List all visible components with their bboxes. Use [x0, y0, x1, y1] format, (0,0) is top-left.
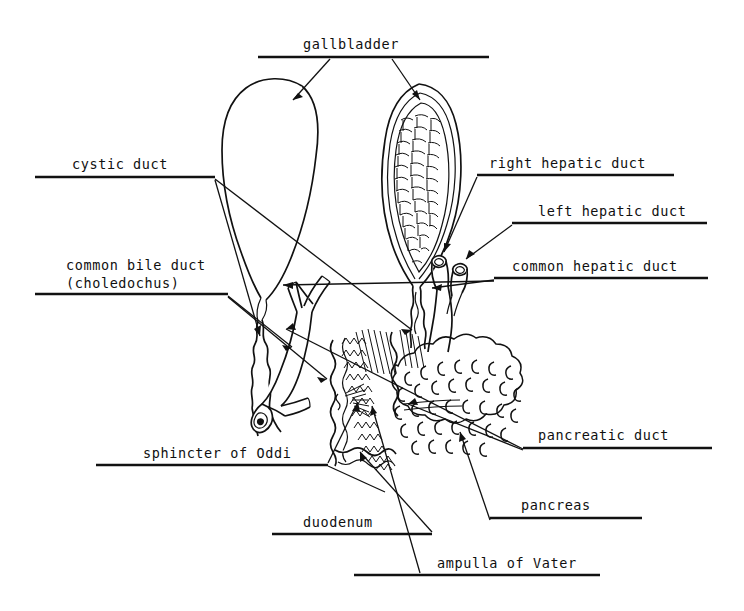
label-ampulla-of-vater: ampulla of Vater [437, 555, 577, 572]
label-common-hepatic-duct: common hepatic duct [512, 258, 678, 275]
label-pancreas: pancreas [521, 497, 591, 514]
pancreas-illustration [392, 334, 522, 456]
label-gallbladder: gallbladder [303, 36, 399, 53]
label-right-hepatic-duct: right hepatic duct [489, 155, 646, 172]
label-left-hepatic-duct: left hepatic duct [538, 203, 686, 220]
label-underlines [35, 57, 712, 575]
label-duodenum: duodenum [303, 514, 373, 531]
duodenum-illustration [331, 329, 425, 470]
label-common-bile-duct: common bile duct (choledochus) [66, 256, 206, 292]
label-common-bile-duct-line1: common bile duct [66, 256, 206, 274]
anatomy-diagram: gallbladder cystic duct common bile duct… [0, 0, 744, 611]
label-pancreatic-duct: pancreatic duct [538, 427, 669, 444]
common-bile-duct-illustration [251, 276, 330, 436]
label-common-bile-duct-line2: (choledochus) [66, 274, 206, 292]
label-cystic-duct: cystic duct [72, 156, 168, 173]
label-sphincter-of-oddi: sphincter of Oddi [143, 445, 291, 462]
